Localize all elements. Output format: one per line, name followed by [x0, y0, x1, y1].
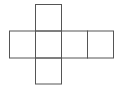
cube-face-bottom [36, 58, 62, 84]
cube-face-center [36, 31, 62, 58]
cube-face-top [36, 5, 62, 32]
cube-face-left [10, 31, 36, 58]
cube-face-far-right [88, 31, 114, 58]
cube-net-diagram [0, 0, 118, 88]
cube-face-right [62, 31, 88, 58]
